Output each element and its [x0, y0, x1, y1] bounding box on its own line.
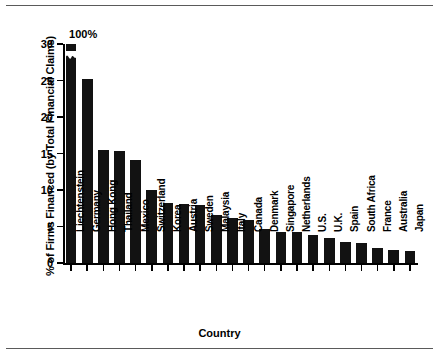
axis-break-icon	[66, 51, 77, 62]
x-axis-category-label: Italy	[236, 213, 247, 232]
x-axis-tick	[135, 265, 137, 271]
x-axis-tick	[86, 265, 88, 271]
x-axis-title: Country	[0, 327, 439, 339]
x-axis-category-label: Thailand	[123, 192, 134, 232]
x-axis-category-label: U.S.	[317, 213, 328, 232]
bar	[259, 229, 270, 263]
y-axis-tick: 5	[57, 226, 63, 228]
x-axis-category-label: Malaysia	[220, 192, 231, 232]
x-axis-category-label: Austria	[188, 199, 199, 232]
x-axis-category-label: South Africa	[366, 175, 377, 232]
x-axis-tick	[119, 265, 121, 271]
y-axis-tick: 25	[57, 80, 63, 82]
bar	[388, 250, 399, 263]
x-axis-category-label: U.K.	[333, 213, 344, 232]
y-axis-tick-label: 25	[41, 75, 53, 87]
x-axis-tick	[312, 265, 314, 271]
x-axis-category-label: Mexico	[140, 199, 151, 232]
bar	[292, 232, 303, 263]
x-axis-category-label: Japan	[414, 204, 425, 232]
y-axis-tick-label: 20	[41, 111, 53, 123]
bar	[405, 251, 416, 263]
x-axis-tick	[232, 265, 234, 271]
y-axis-tick: 30	[57, 43, 63, 45]
y-axis-tick: 20	[57, 116, 63, 118]
x-axis-tick	[216, 265, 218, 271]
x-axis-tick	[167, 265, 169, 271]
x-axis-tick	[103, 265, 105, 271]
x-axis-category-label: Netherlands	[301, 176, 312, 232]
y-axis-tick: 15	[57, 153, 63, 155]
x-axis-tick	[199, 265, 201, 271]
y-axis-line	[63, 44, 65, 264]
x-axis-tick	[264, 265, 266, 271]
x-axis-tick	[248, 265, 250, 271]
x-axis-line	[63, 263, 418, 265]
x-axis-tick	[183, 265, 185, 271]
y-axis-tick: 0	[57, 262, 63, 264]
y-axis-tick-label: 30	[41, 38, 53, 50]
bar	[276, 232, 287, 263]
x-axis-tick	[280, 265, 282, 271]
x-axis-category-label: Liechtenstein	[75, 170, 86, 232]
x-axis-category-label: Hong Kong	[107, 180, 118, 232]
y-axis-tick: 10	[57, 189, 63, 191]
x-axis-tick	[377, 265, 379, 271]
x-axis-category-label: Korea	[172, 205, 183, 232]
x-axis-tick	[329, 265, 331, 271]
y-axis-tick-label: 5	[47, 221, 53, 233]
bar-value-annotation: 100%	[69, 28, 97, 40]
x-axis-category-label: Canada	[253, 197, 264, 232]
x-axis-category-label: Germany	[91, 190, 102, 232]
x-axis-category-label: Denmark	[269, 191, 280, 232]
bar	[372, 248, 383, 263]
y-axis-tick-label: 15	[41, 148, 53, 160]
x-axis-tick	[151, 265, 153, 271]
bottom-divider-rule	[6, 348, 433, 349]
bar	[340, 242, 351, 263]
x-axis-tick	[296, 265, 298, 271]
x-axis-category-label: Sweden	[204, 195, 215, 232]
x-axis-tick	[409, 265, 411, 271]
x-axis-tick	[70, 265, 72, 271]
x-axis-category-label: France	[382, 200, 393, 232]
y-axis-tick-label: 10	[41, 184, 53, 196]
y-axis-tick-label: 0	[47, 257, 53, 269]
x-axis-category-label: Switzerland	[156, 179, 167, 232]
x-axis-tick	[393, 265, 395, 271]
x-axis-category-label: Singapore	[285, 185, 296, 232]
bar	[356, 243, 367, 263]
bar	[324, 238, 335, 263]
x-axis-category-label: Australia	[398, 191, 409, 232]
x-axis-category-label: Spain	[349, 206, 360, 232]
chart-figure: % of Firms Financed (by Total Financial …	[0, 0, 439, 359]
top-divider-rule	[6, 5, 433, 6]
x-axis-tick	[361, 265, 363, 271]
x-axis-tick	[345, 265, 347, 271]
bar	[308, 235, 319, 263]
